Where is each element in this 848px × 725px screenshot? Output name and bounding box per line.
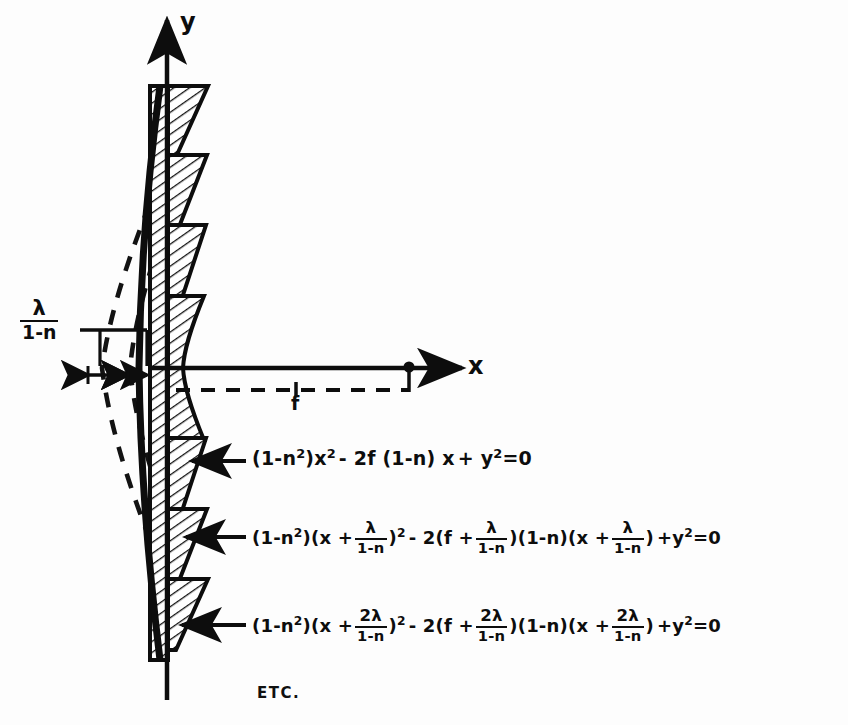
eq1-close: )	[305, 447, 314, 469]
etc-label: ETC.	[257, 684, 300, 702]
eq2-num-1: λ	[363, 520, 378, 538]
eq3-p8: )	[560, 615, 568, 636]
lens-prism-upper-1	[168, 86, 208, 157]
eq2-omn-2: 1-n	[526, 527, 559, 548]
eq3-omn-1: 1-n	[260, 615, 293, 636]
eq3-den-1: 1-n	[355, 626, 387, 644]
eq2-xplus-2: x +	[576, 527, 610, 548]
eq3-p5: (	[436, 615, 444, 636]
eq3-den-2: 1-n	[476, 626, 508, 644]
eq1-one-minus-n-2: 1-n	[391, 447, 426, 469]
eq1-close-x: ) x	[427, 447, 455, 469]
y-axis-label: y	[180, 8, 196, 36]
eq2-shift-fraction-3: λ1-n	[612, 520, 644, 555]
eq3-y: y	[672, 615, 684, 636]
figure-canvas: y x f λ 1-n (1-n2)x2- 2f (1-n) x+ y2=0 (…	[0, 0, 848, 725]
eq3-sup-3: 2	[684, 614, 693, 628]
groove-offset-label: λ 1-n	[18, 299, 60, 343]
eq2-p10: )	[646, 527, 654, 548]
lens-prism-lower-1	[168, 438, 206, 511]
eq2-omn-1: 1-n	[260, 527, 293, 548]
eq3-sup-2: 2	[397, 614, 406, 628]
eq1-sup-a: 2	[296, 446, 305, 461]
eq3-p7: (	[518, 615, 526, 636]
eq3-p4: )	[389, 615, 397, 636]
eq2-shift-fraction-2: λ1-n	[476, 520, 508, 555]
eq2-p5: (	[436, 527, 444, 548]
lens-prism-upper-2	[168, 155, 207, 227]
eq2-sup-2: 2	[397, 526, 406, 540]
eq3-omn-2: 1-n	[526, 615, 559, 636]
eq2-xplus-1: x +	[319, 527, 353, 548]
equation-3: (1-n2)(x +2λ1-n)2- 2(f +2λ1-n)(1-n)(x +2…	[252, 609, 721, 644]
eq3-shift-fraction-2: 2λ1-n	[476, 608, 508, 643]
eq3-minus2: - 2	[409, 615, 436, 636]
eq3-shift-fraction-3: 2λ1-n	[612, 608, 644, 643]
x-axis-label: x	[468, 352, 483, 380]
groove-offset-numerator: λ	[31, 298, 48, 320]
eq2-p7: (	[518, 527, 526, 548]
lens-body	[139, 86, 208, 660]
eq2-equals-zero: =0	[693, 527, 721, 548]
eq2-plus: +	[657, 527, 672, 548]
eq1-one-minus-n: 1-n	[261, 447, 296, 469]
groove-offset-denominator: 1-n	[20, 320, 58, 342]
eq2-p6: )	[509, 527, 517, 548]
eq3-fplus: f +	[444, 615, 474, 636]
eq2-p4: )	[389, 527, 397, 548]
eq1-minus-2f: - 2f (	[339, 447, 392, 469]
eq2-p8: )	[560, 527, 568, 548]
eq3-p2: )	[303, 615, 311, 636]
eq2-num-2: λ	[484, 520, 499, 538]
eq2-p2: )	[303, 527, 311, 548]
eq2-num-3: λ	[620, 520, 635, 538]
eq3-plus: +	[657, 615, 672, 636]
equation-1: (1-n2)x2- 2f (1-n) x+ y2=0	[252, 447, 532, 469]
eq3-num-1: 2λ	[358, 608, 384, 626]
eq3-xplus-2: x +	[576, 615, 610, 636]
eq2-minus2: - 2	[409, 527, 436, 548]
eq1-sup-x: 2	[327, 446, 336, 461]
eq2-sup-3: 2	[684, 526, 693, 540]
eq3-p6: )	[509, 615, 517, 636]
eq2-den-3: 1-n	[612, 538, 644, 556]
eq3-sup-1: 2	[294, 614, 303, 628]
eq3-num-3: 2λ	[615, 608, 641, 626]
equation-2: (1-n2)(x +λ1-n)2- 2(f +λ1-n)(1-n)(x +λ1-…	[252, 521, 721, 556]
lens-prism-lower-2	[168, 509, 207, 581]
eq2-den-2: 1-n	[476, 538, 508, 556]
eq3-xplus-1: x +	[319, 615, 353, 636]
eq1-x: x	[314, 447, 326, 469]
eq2-shift-fraction-1: λ1-n	[355, 520, 387, 555]
eq2-y: y	[672, 527, 684, 548]
eq3-num-2: 2λ	[478, 608, 504, 626]
eq2-den-1: 1-n	[355, 538, 387, 556]
eq3-den-3: 1-n	[612, 626, 644, 644]
eq1-equals-zero: =0	[502, 447, 532, 469]
lens-prism-upper-3	[168, 225, 206, 298]
eq3-equals-zero: =0	[693, 615, 721, 636]
eq1-open: (	[252, 447, 261, 469]
eq3-shift-fraction-1: 2λ1-n	[355, 608, 387, 643]
eq2-fplus: f +	[444, 527, 474, 548]
groove-offset-fraction: λ 1-n	[20, 298, 58, 342]
eq2-sup-1: 2	[294, 526, 303, 540]
eq3-p10: )	[646, 615, 654, 636]
eq1-plus-y: + y	[458, 447, 494, 469]
lens-prism-lower-3	[168, 579, 208, 650]
focal-length-label: f	[291, 392, 299, 414]
